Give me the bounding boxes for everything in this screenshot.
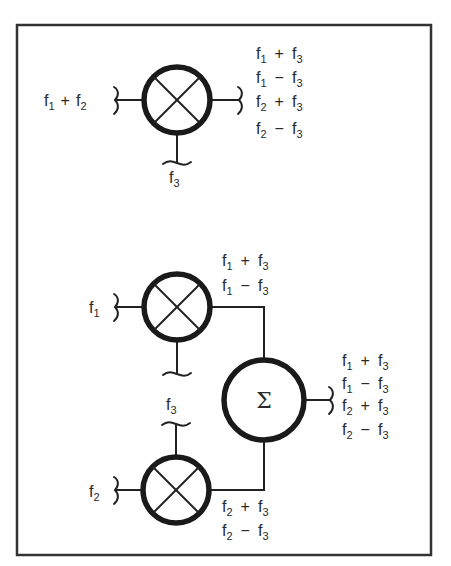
summer-group: Σ f1+f3 f1−f3 f2+f3 f2−f3 <box>224 352 389 441</box>
mixer-f2-output-list: f2+f3 f2−f3 <box>222 498 269 542</box>
output-brace-icon <box>238 87 242 114</box>
top-input-label: f1+f2 <box>44 92 87 112</box>
summer-output-1: f1−f3 <box>342 375 389 395</box>
top-output-1: f1−f3 <box>256 69 303 89</box>
top-output-3: f2−f3 <box>256 120 303 140</box>
mixer-f2 <box>143 457 209 523</box>
mixer-f1-output-0: f1+f3 <box>222 252 269 272</box>
mixer-top <box>144 67 210 133</box>
mixer-f2-lo-label: f3 <box>166 396 177 416</box>
summer-output-list: f1+f3 f1−f3 f2+f3 f2−f3 <box>342 352 389 441</box>
summer: Σ <box>224 360 304 440</box>
summer-output-3: f2−f3 <box>342 421 389 441</box>
mixer-f1-output-list: f1+f3 f1−f3 <box>222 252 269 297</box>
mixer-f2-output-0: f2+f3 <box>222 498 269 518</box>
top-output-list: f1+f3 f1−f3 f2+f3 f2−f3 <box>256 45 303 140</box>
mixer-f2-input-label: f2 <box>89 483 100 503</box>
mixer-f2-output-1: f2−f3 <box>222 522 269 542</box>
mixer-f1-output-1: f1−f3 <box>222 277 269 297</box>
summer-output-0: f1+f3 <box>342 352 389 372</box>
mixer-f1 <box>144 274 210 340</box>
top-lo-label: f3 <box>169 169 180 189</box>
top-output-0: f1+f3 <box>256 45 303 65</box>
output-brace-icon <box>329 387 333 414</box>
summer-output-2: f2+f3 <box>342 397 389 417</box>
mixer-f1-group: f1 f1+f3 f1−f3 <box>89 252 269 376</box>
top-output-2: f2+f3 <box>256 93 303 113</box>
top-mixer-group: f1+f2 f3 f1+f3 f1−f3 f2+f3 <box>44 45 303 189</box>
mixer-diagram: f1+f2 f3 f1+f3 f1−f3 f2+f3 <box>0 0 451 566</box>
mixer-f1-input-label: f1 <box>89 299 100 319</box>
wire-mixer-f2-to-summer <box>209 440 264 490</box>
sigma-icon: Σ <box>256 388 272 413</box>
wire-mixer-f1-to-summer <box>210 307 264 360</box>
